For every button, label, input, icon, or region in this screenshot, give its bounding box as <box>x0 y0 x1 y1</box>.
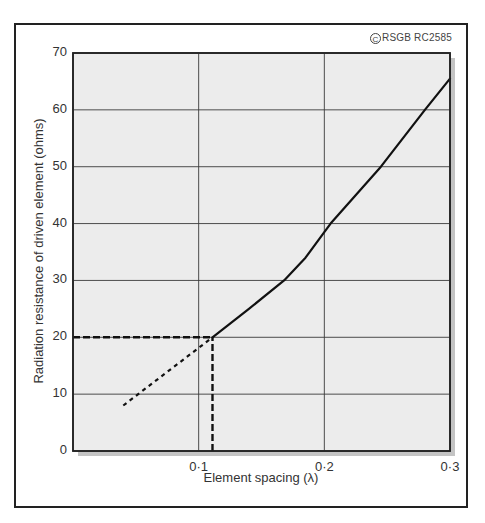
x-axis-label: Element spacing (λ) <box>204 470 319 485</box>
y-axis-label: Radiation resistance of driven element (… <box>31 118 46 383</box>
plot-background <box>73 53 450 451</box>
y-tick-label: 70 <box>37 44 67 59</box>
y-tick-label: 10 <box>37 385 67 400</box>
plot-area <box>0 0 485 523</box>
y-tick-label: 60 <box>37 101 67 116</box>
y-tick-label: 0 <box>37 442 67 457</box>
x-tick-label: 0·3 <box>430 459 470 474</box>
